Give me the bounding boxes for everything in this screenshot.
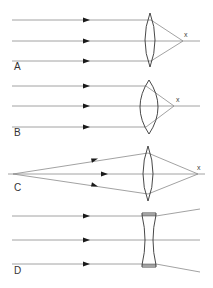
arrow-icon xyxy=(83,262,90,267)
arrow-icon xyxy=(91,182,98,186)
panel-c: x C xyxy=(8,146,205,201)
ray-upper xyxy=(13,153,148,174)
convex-lens xyxy=(145,13,155,67)
arrow-icon xyxy=(83,104,90,109)
focus-label: x xyxy=(184,31,188,38)
panel-label: B xyxy=(14,127,21,138)
refracted-ray-top xyxy=(146,86,174,106)
refracted-ray-upper xyxy=(148,153,198,174)
refracted-ray-bottom xyxy=(151,41,183,61)
refracted-ray-lower xyxy=(148,174,198,194)
arrow-icon xyxy=(83,59,90,64)
panel-label: A xyxy=(14,61,21,72)
diverging-ray-bottom xyxy=(156,264,200,272)
diverging-ray-top xyxy=(156,209,200,216)
panel-b: x B xyxy=(12,80,200,138)
arrow-icon xyxy=(83,18,90,23)
lens-ray-diagram: x A x B x C xyxy=(0,0,213,288)
arrow-icon xyxy=(83,125,90,130)
arrow-icon xyxy=(83,84,90,89)
focus-label: x xyxy=(176,96,180,103)
arrow-icon xyxy=(101,172,108,177)
refracted-ray-top xyxy=(151,20,183,41)
panel-d: D xyxy=(12,209,200,276)
ray-lower xyxy=(13,174,148,194)
panel-a: x A xyxy=(12,13,200,72)
focus-label: x xyxy=(197,164,201,171)
panel-label: D xyxy=(14,265,21,276)
arrow-icon xyxy=(83,214,90,219)
arrow-icon xyxy=(83,238,90,243)
refracted-ray-bottom xyxy=(146,106,174,127)
panel-label: C xyxy=(14,182,21,193)
arrow-icon xyxy=(83,39,90,44)
